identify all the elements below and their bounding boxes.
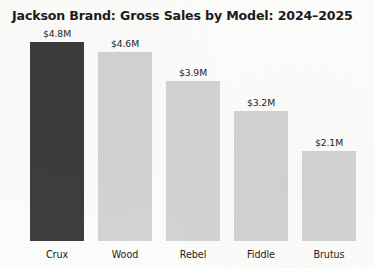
bar-value-label-wood: $4.6M	[111, 38, 139, 49]
bar-group-crux[interactable]: $4.8MCrux	[30, 0, 84, 268]
bar-value-label-crux: $4.8M	[43, 28, 71, 39]
bar-chart: Jackson Brand: Gross Sales by Model: 202…	[0, 0, 375, 268]
bar-group-rebel[interactable]: $3.9MRebel	[166, 0, 220, 268]
bar-category-label-wood: Wood	[112, 249, 139, 260]
plot-area: $4.8MCrux$4.6MWood$3.9MRebel$3.2MFiddle$…	[0, 0, 375, 268]
bar-wood[interactable]	[98, 52, 152, 241]
bar-fiddle[interactable]	[234, 111, 288, 241]
bar-value-label-fiddle: $3.2M	[247, 97, 275, 108]
bar-value-label-brutus: $2.1M	[315, 137, 343, 148]
bar-brutus[interactable]	[302, 151, 356, 241]
bar-value-label-rebel: $3.9M	[179, 67, 207, 78]
bar-category-label-crux: Crux	[46, 249, 68, 260]
bar-category-label-rebel: Rebel	[180, 249, 207, 260]
bar-group-wood[interactable]: $4.6MWood	[98, 0, 152, 268]
bar-category-label-fiddle: Fiddle	[247, 249, 275, 260]
bar-group-brutus[interactable]: $2.1MBrutus	[302, 0, 356, 268]
bar-group-fiddle[interactable]: $3.2MFiddle	[234, 0, 288, 268]
bar-rebel[interactable]	[166, 81, 220, 241]
bar-category-label-brutus: Brutus	[313, 249, 344, 260]
bar-crux[interactable]	[30, 42, 84, 241]
